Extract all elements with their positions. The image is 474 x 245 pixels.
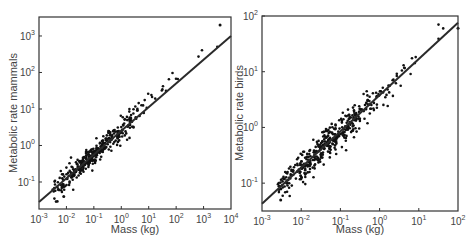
data-point	[288, 167, 291, 170]
data-point	[437, 23, 440, 26]
data-point	[279, 198, 282, 201]
birds-x-axis-label: Mass (kg)	[336, 223, 384, 235]
data-point	[126, 116, 129, 119]
data-point	[281, 195, 284, 198]
data-point	[338, 135, 341, 138]
data-point	[342, 135, 345, 138]
data-point	[306, 165, 309, 168]
birds-panel: 10-310-210-1100101102 10-1100101102 Mass…	[233, 9, 466, 235]
data-point	[64, 185, 67, 188]
data-point	[362, 93, 365, 96]
data-point	[364, 104, 367, 107]
data-point	[376, 107, 379, 110]
data-point	[65, 166, 68, 169]
data-point	[134, 105, 137, 108]
data-point	[345, 140, 348, 143]
data-point	[110, 149, 113, 152]
data-point	[292, 169, 295, 172]
data-point	[331, 132, 334, 135]
data-point	[116, 144, 119, 147]
data-point	[309, 149, 312, 152]
data-point	[91, 148, 94, 151]
data-point	[376, 103, 379, 106]
data-point	[168, 78, 171, 81]
data-point	[359, 107, 362, 110]
data-point	[315, 155, 318, 158]
data-point	[114, 131, 117, 134]
data-point	[314, 146, 317, 149]
data-point	[105, 137, 108, 140]
data-point	[355, 130, 358, 133]
data-point	[330, 123, 333, 126]
data-point	[322, 163, 325, 166]
data-point	[62, 195, 65, 198]
data-point	[68, 162, 71, 165]
data-point	[354, 127, 357, 130]
data-point	[353, 104, 356, 107]
data-point	[331, 126, 334, 129]
data-point	[288, 195, 291, 198]
data-point	[338, 119, 341, 122]
data-point	[366, 122, 369, 125]
data-point	[132, 108, 135, 111]
data-point	[113, 141, 116, 144]
data-point	[302, 181, 305, 184]
data-point	[373, 109, 376, 112]
y-tick-label: 102	[20, 65, 35, 78]
data-point	[329, 131, 332, 134]
data-point	[342, 118, 345, 121]
data-point	[345, 115, 348, 118]
data-point	[355, 119, 358, 122]
data-point	[54, 179, 57, 182]
data-point	[329, 126, 332, 129]
data-point	[379, 90, 382, 93]
data-point	[286, 184, 289, 187]
data-point	[312, 138, 315, 141]
data-point	[117, 126, 120, 129]
data-point	[126, 119, 129, 122]
data-point	[352, 106, 355, 109]
data-point	[312, 159, 315, 162]
data-point	[291, 184, 294, 187]
figure: 10-310-210-1100101102103104 10-110010110…	[0, 0, 474, 245]
data-point	[396, 73, 399, 76]
data-point	[372, 92, 375, 95]
data-point	[345, 149, 348, 152]
data-point	[306, 156, 309, 159]
data-point	[79, 172, 82, 175]
data-point	[121, 132, 124, 135]
data-point	[382, 86, 385, 89]
data-point	[375, 92, 378, 95]
x-tick-label: 10-1	[85, 212, 102, 225]
data-point	[304, 183, 307, 186]
data-point	[92, 163, 95, 166]
data-point	[281, 177, 284, 180]
data-point	[414, 56, 417, 59]
data-point	[348, 117, 351, 120]
data-point	[392, 95, 395, 98]
data-point	[102, 151, 105, 154]
data-point	[57, 181, 60, 184]
data-point	[106, 134, 109, 137]
data-point	[283, 185, 286, 188]
data-point	[328, 147, 331, 150]
data-point	[57, 188, 60, 191]
data-point	[388, 91, 391, 94]
mammals-y-ticks: 10-1100101102103	[18, 29, 42, 188]
data-point	[286, 172, 289, 175]
data-point	[353, 109, 356, 112]
data-point	[143, 99, 146, 102]
data-point	[352, 129, 355, 132]
data-point	[341, 132, 344, 135]
data-point	[303, 172, 306, 175]
y-tick-label: 100	[20, 138, 35, 151]
data-point	[94, 160, 97, 163]
data-point	[55, 200, 58, 203]
data-point	[306, 171, 309, 174]
data-point	[120, 126, 123, 129]
data-point	[409, 73, 412, 76]
data-point	[329, 152, 332, 155]
data-point	[132, 126, 135, 129]
data-point	[351, 125, 354, 128]
data-point	[53, 197, 56, 200]
